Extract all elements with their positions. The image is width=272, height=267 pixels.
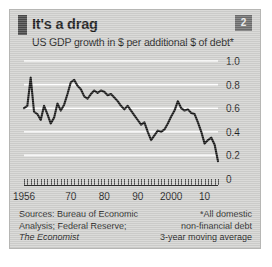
gridlines (24, 61, 218, 155)
x-minor-tick (195, 179, 196, 185)
x-minor-tick (205, 179, 206, 185)
x-minor-tick (211, 179, 212, 185)
y-tick-label: 0.2 (226, 150, 240, 161)
plot-area (24, 61, 218, 179)
footnote-line-1: *All domestic (160, 209, 252, 221)
x-axis (24, 179, 218, 189)
x-minor-tick (154, 179, 155, 185)
line-chart-svg (24, 61, 218, 179)
x-minor-tick (51, 179, 52, 185)
x-minor-tick (24, 179, 25, 185)
footnote-line-3: 3-year moving average (160, 232, 252, 244)
x-tick-label: 2000 (160, 191, 182, 202)
x-minor-tick (34, 179, 35, 185)
x-axis-line (24, 185, 218, 186)
x-tick-label: 90 (132, 191, 143, 202)
x-minor-tick (175, 179, 176, 185)
x-minor-tick (111, 179, 112, 185)
x-minor-tick (84, 179, 85, 185)
x-minor-tick (141, 179, 142, 185)
y-tick-label: 1.0 (226, 56, 240, 67)
x-minor-tick (94, 179, 95, 185)
x-minor-tick (178, 179, 179, 185)
x-minor-tick (71, 179, 72, 185)
chart-subtitle: US GDP growth in $ per additional $ of d… (32, 36, 234, 48)
x-minor-tick (57, 179, 58, 185)
x-minor-tick (188, 179, 189, 185)
footnote-line-2: non-financial debt (160, 221, 252, 233)
x-minor-tick (104, 179, 105, 185)
x-minor-tick (78, 179, 79, 185)
x-axis-labels: 1956708090200010 (24, 191, 232, 205)
x-minor-tick (201, 179, 202, 185)
x-minor-tick (108, 179, 109, 185)
x-minor-tick (54, 179, 55, 185)
x-minor-tick (91, 179, 92, 185)
x-minor-tick (101, 179, 102, 185)
x-tick-label: 70 (65, 191, 76, 202)
x-minor-tick (208, 179, 209, 185)
sources-line-1: Sources: Bureau of Economic (19, 209, 138, 221)
sources-note: Sources: Bureau of Economic Analysis; Fe… (19, 209, 138, 244)
x-minor-tick (121, 179, 122, 185)
y-tick-label: 0.6 (226, 103, 240, 114)
footnote: *All domestic non-financial debt 3-year … (160, 209, 252, 244)
x-minor-tick (134, 179, 135, 185)
sources-brand: The Economist (19, 232, 138, 244)
chart-header: It's a drag US GDP growth in $ per addit… (10, 10, 260, 58)
x-minor-tick (114, 179, 115, 185)
x-minor-tick (31, 179, 32, 185)
x-tick-label: 1956 (13, 191, 35, 202)
x-minor-tick (67, 179, 68, 185)
badge-number: 2 (235, 15, 252, 31)
accent-bar (18, 15, 27, 35)
x-tick-label: 10 (199, 191, 210, 202)
x-minor-tick (168, 179, 169, 185)
y-tick-label: 0.8 (226, 79, 240, 90)
x-minor-tick (191, 179, 192, 185)
x-minor-tick (88, 179, 89, 185)
x-minor-tick (131, 179, 132, 185)
chart-card: It's a drag US GDP growth in $ per addit… (9, 9, 261, 249)
chart-footer: Sources: Bureau of Economic Analysis; Fe… (10, 209, 260, 249)
x-minor-tick (171, 179, 172, 185)
x-minor-tick (185, 179, 186, 185)
x-minor-tick (124, 179, 125, 185)
x-minor-tick (44, 179, 45, 185)
data-series-line (24, 78, 218, 162)
sources-line-2: Analysis; Federal Reserve; (19, 221, 138, 233)
x-minor-tick (118, 179, 119, 185)
x-minor-tick (41, 179, 42, 185)
x-minor-tick (81, 179, 82, 185)
y-axis-labels: 00.20.40.60.81.0 (222, 61, 258, 179)
x-minor-tick (158, 179, 159, 185)
x-minor-tick (215, 179, 216, 185)
x-minor-tick (138, 179, 139, 185)
x-minor-tick (128, 179, 129, 185)
y-tick-label: 0 (226, 174, 232, 185)
x-minor-tick (64, 179, 65, 185)
x-minor-tick (144, 179, 145, 185)
x-minor-tick (74, 179, 75, 185)
x-minor-tick (161, 179, 162, 185)
y-tick-label: 0.4 (226, 126, 240, 137)
x-minor-tick (47, 179, 48, 185)
page-title: It's a drag (32, 16, 98, 32)
x-minor-tick (98, 179, 99, 185)
x-minor-tick (37, 179, 38, 185)
x-minor-tick (181, 179, 182, 185)
x-minor-tick (148, 179, 149, 185)
x-minor-tick (27, 179, 28, 185)
x-minor-tick (218, 179, 219, 185)
x-tick-label: 80 (99, 191, 110, 202)
x-minor-tick (164, 179, 165, 185)
x-minor-tick (151, 179, 152, 185)
x-minor-tick (61, 179, 62, 185)
x-minor-tick (198, 179, 199, 185)
